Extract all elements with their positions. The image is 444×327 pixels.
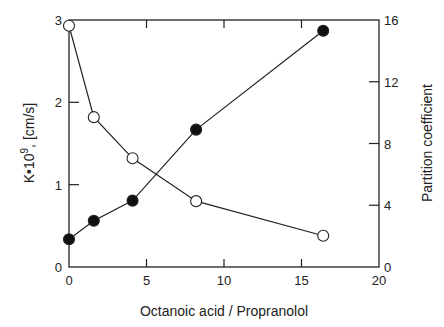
x-tick-label: 20 — [372, 273, 386, 288]
open-circle-marker — [127, 153, 138, 164]
filled-circle-marker — [127, 195, 138, 206]
filled-circle-marker — [88, 215, 99, 226]
right-y-tick-label: 0 — [384, 260, 391, 275]
right-y-tick-label: 12 — [384, 75, 398, 90]
open-circle-marker — [64, 20, 75, 31]
left-y-tick-label: 0 — [55, 260, 62, 275]
open-circle-marker — [88, 112, 99, 123]
data-series — [64, 20, 329, 244]
chart-figure: 0510152001230481216 Octanoic acid / Prop… — [0, 0, 444, 327]
x-tick-label: 0 — [65, 273, 72, 288]
left-y-tick-label: 1 — [55, 178, 62, 193]
right-y-tick-label: 8 — [384, 137, 391, 152]
plot-border — [69, 20, 379, 267]
plot-frame — [69, 20, 379, 267]
filled-circle-marker — [191, 124, 202, 135]
x-axis-title: Octanoic acid / Propranolol — [140, 303, 308, 319]
open-circle-marker — [318, 230, 329, 241]
x-tick-label: 15 — [294, 273, 308, 288]
axis-ticks: 0510152001230481216 — [55, 13, 399, 288]
right-y-tick-label: 16 — [384, 13, 398, 28]
x-tick-label: 10 — [217, 273, 231, 288]
left-y-tick-label: 3 — [55, 13, 62, 28]
left-y-axis-title-unit: , [cm/s] — [21, 103, 37, 148]
filled-circle-marker — [64, 234, 75, 245]
left-y-axis-title: K•109, [cm/s] — [19, 103, 37, 184]
x-tick-label: 5 — [143, 273, 150, 288]
left-y-axis-title-main: K•10 — [21, 153, 37, 183]
left-y-tick-label: 2 — [55, 95, 62, 110]
chart-svg: 0510152001230481216 Octanoic acid / Prop… — [0, 0, 444, 327]
right-y-axis-title: Partition coefficient — [419, 84, 435, 202]
open-circle-marker — [191, 196, 202, 207]
filled-circle-marker — [318, 25, 329, 36]
right-y-tick-label: 4 — [384, 198, 391, 213]
